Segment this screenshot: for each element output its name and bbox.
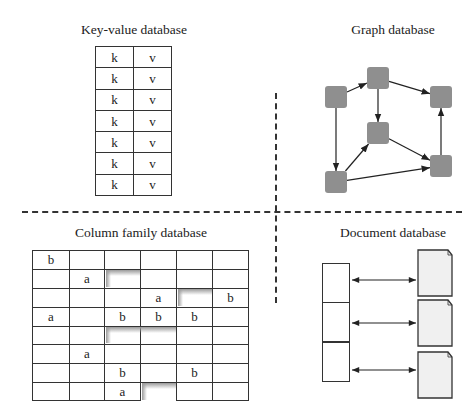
document-icon xyxy=(418,352,452,398)
document-icon xyxy=(418,250,452,296)
document-links xyxy=(0,0,476,417)
document-icon xyxy=(418,300,452,346)
